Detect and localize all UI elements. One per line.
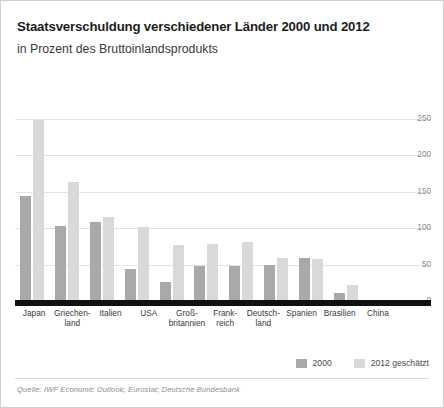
bar bbox=[125, 269, 136, 301]
chart-legend: 20002012 geschätzt bbox=[1, 358, 429, 368]
bar bbox=[90, 222, 101, 301]
bar-group bbox=[259, 119, 294, 301]
bar-group bbox=[50, 119, 85, 301]
x-axis-tick-label: Japan bbox=[15, 309, 53, 329]
y-axis-tick-label: 50 bbox=[399, 260, 431, 268]
bar-group bbox=[293, 119, 328, 301]
x-axis-tick-label: Brasilien bbox=[321, 309, 359, 329]
y-axis-tick-label: 200 bbox=[399, 151, 431, 159]
x-axis-tick-label: Spanien bbox=[282, 309, 320, 329]
chart-subtitle: in Prozent des Bruttoinlandsprodukts bbox=[17, 42, 429, 57]
bar bbox=[347, 285, 358, 301]
chart-plot-wrapper: 050100150200250 bbox=[15, 119, 431, 301]
bar bbox=[229, 266, 240, 301]
x-axis-tick-label: Frank-reich bbox=[206, 309, 244, 329]
bar-group bbox=[328, 119, 363, 301]
bar bbox=[173, 245, 184, 301]
x-axis-labels: JapanGriechen-landItalienUSAGroß-britann… bbox=[15, 309, 397, 329]
chart-plot-area bbox=[15, 119, 397, 301]
bar bbox=[138, 227, 149, 301]
legend-swatch bbox=[296, 359, 307, 368]
legend-item: 2012 geschätzt bbox=[354, 358, 429, 368]
bar bbox=[277, 258, 288, 301]
x-axis-tick-label: USA bbox=[130, 309, 168, 329]
legend-label: 2000 bbox=[313, 358, 332, 368]
chart-bars bbox=[15, 119, 363, 301]
bar bbox=[33, 120, 44, 301]
page-title: Staatsverschuldung verschiedener Länder … bbox=[17, 19, 429, 36]
bar bbox=[242, 242, 253, 301]
bar bbox=[103, 217, 114, 301]
bar bbox=[299, 258, 310, 301]
x-axis-tick-label: Groß-britannien bbox=[168, 309, 206, 329]
x-axis-tick-label: Deutsch-land bbox=[244, 309, 282, 329]
bar-group bbox=[119, 119, 154, 301]
bar bbox=[55, 226, 66, 301]
legend-swatch bbox=[354, 359, 365, 368]
infographic-card: Staatsverschuldung verschiedener Länder … bbox=[0, 0, 444, 408]
bar bbox=[207, 244, 218, 301]
y-axis-tick-label: 100 bbox=[399, 224, 431, 232]
bar bbox=[312, 259, 323, 301]
x-axis-tick-label: Italien bbox=[91, 309, 129, 329]
bar bbox=[68, 182, 79, 301]
bar bbox=[264, 265, 275, 301]
legend-item: 2000 bbox=[296, 358, 332, 368]
y-axis-tick-label: 250 bbox=[399, 115, 431, 123]
y-axis-tick-label: 150 bbox=[399, 188, 431, 196]
x-axis-tick-label: Griechen-land bbox=[53, 309, 91, 329]
source-note: Quelle: IWF Economic Outlook; Eurostat; … bbox=[17, 385, 240, 394]
bar-group bbox=[15, 119, 50, 301]
bar bbox=[194, 266, 205, 301]
footer-divider bbox=[15, 378, 429, 379]
x-axis-tick-label: China bbox=[359, 309, 397, 329]
bar bbox=[20, 196, 31, 301]
bar-group bbox=[224, 119, 259, 301]
bar-group bbox=[154, 119, 189, 301]
legend-label: 2012 geschätzt bbox=[371, 358, 429, 368]
bar-group bbox=[85, 119, 120, 301]
axis-baseline bbox=[15, 300, 431, 306]
chart-header: Staatsverschuldung verschiedener Länder … bbox=[17, 19, 429, 57]
bar-group bbox=[189, 119, 224, 301]
bar bbox=[160, 282, 171, 301]
